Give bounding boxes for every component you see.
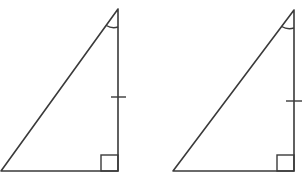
triangle-2 [173,10,302,171]
triangle-1-angle-arc [106,26,118,28]
triangle-2-right-angle-marker [277,155,294,171]
triangle-1 [1,9,126,171]
diagram-canvas [0,0,304,176]
triangle-1-outline [1,9,118,171]
triangles-figure [0,0,304,176]
triangle-1-right-angle-marker [101,155,118,171]
triangle-2-angle-arc [282,27,294,29]
triangle-2-outline [173,10,294,171]
